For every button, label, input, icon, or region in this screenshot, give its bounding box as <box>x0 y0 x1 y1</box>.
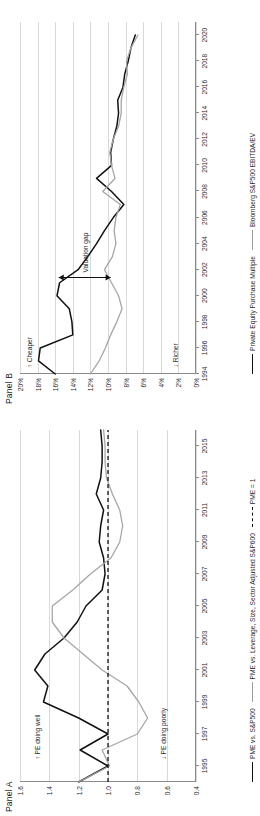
legend-swatch <box>252 354 253 374</box>
legend-label: Private Equity Purchase Multiple <box>249 256 256 351</box>
panel-a-title: Panel A <box>4 781 14 812</box>
legend-label: PME vs. Leverage, Size, Sector Adjusted … <box>249 533 256 679</box>
y-axis-tick-label: 16% <box>52 378 59 391</box>
panel-b-plot-area: 0%2%4%6%8%10%12%14%16%18%20%199419961998… <box>20 22 196 374</box>
x-axis-tick-label: 2002 <box>201 262 208 277</box>
x-axis-tick-mark <box>196 86 199 87</box>
x-axis-tick-mark <box>196 217 199 218</box>
x-axis-tick-label: 1994 <box>201 367 208 382</box>
x-axis-tick-label: 2015 <box>201 439 208 454</box>
x-axis-tick-label: 1995 <box>201 759 208 774</box>
panel-b-legend: Private Equity Purchase MultipleBloomber… <box>249 133 256 374</box>
figure-upright: Panel A 0.40.60.81.01.21.41.619951997199… <box>0 0 260 816</box>
panel-b-note-richer: ↓ Richer <box>172 343 179 367</box>
legend-swatch <box>252 682 253 702</box>
x-axis-tick-label: 2006 <box>201 210 208 225</box>
x-axis-tick-label: 2016 <box>201 80 208 95</box>
y-axis-tick-label: 14% <box>69 378 76 391</box>
panel-a-note-pe-doing-well: ↑ PE doing well <box>34 715 41 760</box>
x-axis-tick-label: 2014 <box>201 106 208 121</box>
x-axis-tick-mark <box>196 509 199 510</box>
gridline <box>196 430 197 782</box>
legend-item[interactable]: Private Equity Purchase Multiple <box>249 256 256 374</box>
x-axis-tick-label: 2011 <box>201 503 208 517</box>
y-axis-tick-label: 0% <box>193 378 200 388</box>
x-axis-tick-mark <box>196 605 199 606</box>
legend-item[interactable]: PME vs. Leverage, Size, Sector Adjusted … <box>249 533 256 702</box>
series-line <box>90 35 138 374</box>
y-axis-tick-label: 2% <box>175 378 182 388</box>
panel-a: Panel A 0.40.60.81.01.21.41.619951997199… <box>0 408 260 816</box>
legend-label: PME = 1 <box>249 479 256 504</box>
x-axis-tick-mark <box>196 765 199 766</box>
x-axis-tick-mark <box>196 445 199 446</box>
x-axis-tick-label: 2004 <box>201 236 208 251</box>
panel-b-note-cheaper: ↑ Cheaper <box>26 337 33 367</box>
y-axis-tick-label: 1.2 <box>75 786 82 795</box>
x-axis-tick-mark <box>196 669 199 670</box>
y-axis-tick-label: 12% <box>87 378 94 391</box>
panel-a-note-pe-doing-poorly: ↓ PE doing poorly <box>160 708 167 760</box>
legend-swatch <box>252 507 253 527</box>
x-axis-tick-mark <box>196 637 199 638</box>
x-axis-tick-label: 2012 <box>201 132 208 147</box>
y-axis-tick-label: 0.6 <box>163 786 170 795</box>
x-axis-tick-label: 2008 <box>201 184 208 199</box>
legend-item[interactable]: Bloomberg S&P500 EBITDA/EV <box>249 133 256 250</box>
x-axis-tick-label: 2020 <box>201 28 208 43</box>
legend-item[interactable]: PME vs. S&P500 <box>249 708 256 782</box>
x-axis-tick-label: 1997 <box>201 727 208 742</box>
legend-item[interactable]: PME = 1 <box>249 479 256 527</box>
x-axis-tick-label: 2001 <box>201 663 208 678</box>
legend-swatch <box>252 230 253 250</box>
x-axis-tick-mark <box>196 733 199 734</box>
x-axis-tick-label: 2018 <box>201 54 208 69</box>
x-axis-tick-mark <box>196 541 199 542</box>
legend-label: Bloomberg S&P500 EBITDA/EV <box>249 133 256 227</box>
panel-b: Panel B 0%2%4%6%8%10%12%14%16%18%20%1994… <box>0 0 260 408</box>
panel-a-plot-area: 0.40.60.81.01.21.41.61995199719992001200… <box>20 430 196 782</box>
panel-a-series-layer <box>20 430 196 782</box>
x-axis-tick-label: 2000 <box>201 288 208 303</box>
svg-text:Valuation gap: Valuation gap <box>82 232 90 272</box>
x-axis-tick-mark <box>196 112 199 113</box>
y-axis-tick-label: 1.6 <box>17 786 24 795</box>
panel-b-series-layer: Valuation gap <box>20 22 196 374</box>
x-axis-tick-mark <box>196 701 199 702</box>
series-line <box>35 430 108 782</box>
legend-swatch <box>252 762 253 782</box>
x-axis-tick-mark <box>196 321 199 322</box>
x-axis-tick-mark <box>196 138 199 139</box>
x-axis-tick-label: 2009 <box>201 535 208 550</box>
y-axis-tick-label: 0.8 <box>134 786 141 795</box>
y-axis-tick-label: 4% <box>157 378 164 388</box>
x-axis-tick-mark <box>196 243 199 244</box>
x-axis-tick-label: 1998 <box>201 315 208 330</box>
valuation-gap-annotation: Valuation gap <box>59 232 111 280</box>
y-axis-tick-label: 10% <box>105 378 112 391</box>
panel-a-legend: PME vs. S&P500PME vs. Leverage, Size, Se… <box>249 479 256 782</box>
x-axis-tick-mark <box>196 573 199 574</box>
x-axis-tick-mark <box>196 373 199 374</box>
x-axis-tick-mark <box>196 295 199 296</box>
y-axis-tick-label: 0.4 <box>193 786 200 795</box>
x-axis-tick-label: 2003 <box>201 631 208 646</box>
y-axis-tick-label: 1.0 <box>105 786 112 795</box>
y-axis-tick-label: 1.4 <box>46 786 53 795</box>
x-axis-tick-mark <box>196 347 199 348</box>
x-axis-tick-mark <box>196 60 199 61</box>
x-axis-tick-label: 2013 <box>201 471 208 486</box>
x-axis-tick-mark <box>196 34 199 35</box>
figure-root: Panel A 0.40.60.81.01.21.41.619951997199… <box>0 0 260 816</box>
legend-label: PME vs. S&P500 <box>249 708 256 759</box>
x-axis-tick-label: 1996 <box>201 341 208 356</box>
y-axis-tick-label: 8% <box>122 378 129 388</box>
y-axis-tick-label: 18% <box>34 378 41 391</box>
x-axis-tick-mark <box>196 190 199 191</box>
x-axis-tick-mark <box>196 269 199 270</box>
x-axis-tick-label: 2010 <box>201 158 208 173</box>
x-axis-tick-label: 2007 <box>201 567 208 582</box>
x-axis-tick-label: 2005 <box>201 599 208 614</box>
y-axis-tick-label: 20% <box>17 378 24 391</box>
x-axis-tick-label: 1999 <box>201 695 208 710</box>
